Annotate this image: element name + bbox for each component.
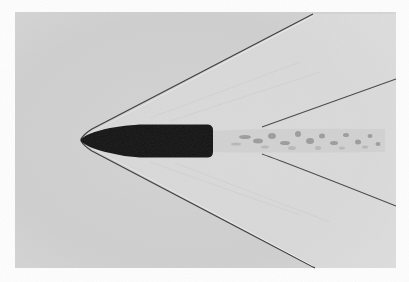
photo-frame: [0, 0, 409, 282]
film-grain: [15, 12, 396, 268]
shadowgraph-photo: [0, 0, 409, 282]
